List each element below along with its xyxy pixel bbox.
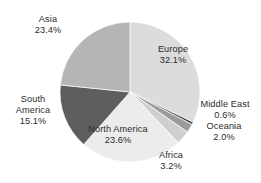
pie-label-south-america-name-line2: America	[2, 105, 64, 116]
pie-chart-figure: Asia 23.4% Europe 32.1% South America 15…	[0, 0, 261, 183]
pie-label-africa: Africa 3.2%	[148, 150, 194, 172]
pie-label-north-america-name: North America	[76, 124, 160, 135]
pie-label-oceania-value: 2.0%	[193, 132, 255, 143]
pie-label-north-america: North America 23.6%	[76, 124, 160, 146]
pie-label-europe-name: Europe	[140, 44, 206, 55]
pie-label-europe-value: 32.1%	[140, 55, 206, 66]
pie-label-oceania-name: Oceania	[193, 121, 255, 132]
pie-label-middle-east-value: 0.6%	[190, 110, 260, 121]
pie-label-north-america-value: 23.6%	[76, 135, 160, 146]
pie-label-europe: Europe 32.1%	[140, 44, 206, 66]
pie-label-oceania: Oceania 2.0%	[193, 121, 255, 143]
pie-label-middle-east-name: Middle East	[190, 99, 260, 110]
pie-label-asia: Asia 23.4%	[12, 14, 84, 36]
pie-label-south-america-name-line1: South	[2, 94, 64, 105]
pie-label-asia-value: 23.4%	[12, 25, 84, 36]
pie-label-asia-name: Asia	[12, 14, 84, 25]
pie-label-africa-value: 3.2%	[148, 161, 194, 172]
pie-label-middle-east: Middle East 0.6%	[190, 99, 260, 121]
pie-label-africa-name: Africa	[148, 150, 194, 161]
pie-label-south-america-value: 15.1%	[2, 116, 64, 127]
pie-label-south-america: South America 15.1%	[2, 94, 64, 128]
